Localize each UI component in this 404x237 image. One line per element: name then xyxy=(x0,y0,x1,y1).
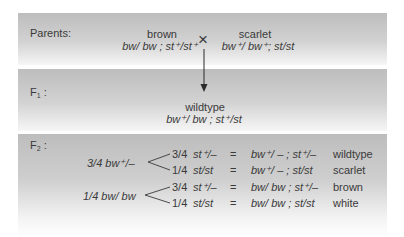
f2-phenotype: wildtype xyxy=(333,148,373,160)
f2-phenotype: scarlet xyxy=(333,164,365,176)
f2-fraction: 1/4 xyxy=(172,197,187,209)
f2-fraction: 3/4 xyxy=(172,148,187,160)
f2-st-genotype: st⁺/– xyxy=(193,148,217,160)
f2-full-genotype: bw/ bw ; st⁺/– xyxy=(251,181,318,193)
f2-full-genotype: bw⁺/ – ; st⁺/– xyxy=(251,148,316,160)
f2-fraction: 1/4 xyxy=(172,164,187,176)
f2-equals: = xyxy=(230,164,236,176)
f2-st-genotype: st⁺/– xyxy=(193,181,217,193)
f2-equals: = xyxy=(230,181,236,193)
f2-st-genotype: st/st xyxy=(193,164,213,176)
f2-group-parent: 3/4 bw⁺/– xyxy=(87,157,135,169)
f1-phenotype: wildtype xyxy=(185,101,225,113)
f2-equals: = xyxy=(230,197,236,209)
f2-phenotype: brown xyxy=(333,181,363,193)
f2-full-genotype: bw⁺/ – ; st/st xyxy=(251,164,313,176)
f2-label: F2 : xyxy=(30,139,47,155)
f2-full-genotype: bw/ bw ; st/st xyxy=(251,197,315,209)
f2-equals: = xyxy=(230,148,236,160)
f2-fraction: 3/4 xyxy=(172,181,187,193)
f1-label: F1 : xyxy=(30,86,47,102)
f1-genotype: bw⁺/ bw ; st⁺/st xyxy=(166,113,242,125)
f2-group-parent: 1/4 bw/ bw xyxy=(83,190,136,202)
f2-phenotype: white xyxy=(333,197,359,209)
f2-st-genotype: st/st xyxy=(193,197,213,209)
